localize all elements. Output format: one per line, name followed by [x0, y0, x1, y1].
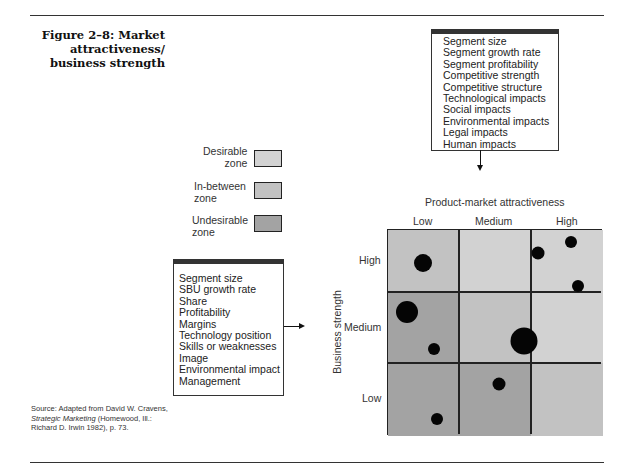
grid-divider [458, 230, 460, 434]
list-item: Profitability [179, 307, 283, 318]
sbu-bubble [565, 236, 577, 248]
legend-label-line: zone [203, 157, 247, 169]
row-label-high: High [359, 254, 381, 266]
sbu-bubble [414, 254, 432, 272]
sbu-bubble [532, 247, 545, 260]
source-book-title: Strategic Marketing [31, 414, 96, 423]
bottom-rule [30, 462, 604, 463]
grid-divider [388, 362, 601, 364]
list-item: Legal impacts [443, 127, 558, 138]
source-citation: Source: Adapted from David W. Cravens, S… [31, 404, 171, 433]
legend-label-in-between: In-between zone [194, 180, 246, 204]
sbu-bubble [493, 378, 506, 391]
y-axis-title: Business strength [331, 282, 343, 382]
x-axis-title: Product-market attractiveness [425, 196, 564, 208]
legend-swatch-in-between [254, 182, 282, 199]
legend-label-line: In-between [194, 180, 246, 192]
column-label-high: High [556, 215, 578, 227]
legend-label-desirable: Desirable zone [203, 145, 247, 169]
cell-medium-low [388, 292, 459, 363]
top-rule [30, 15, 604, 16]
arrow-down-icon [477, 165, 483, 171]
cell-high-medium [459, 230, 531, 292]
cell-low-high [531, 363, 603, 436]
market-factors-box: Segment size Segment growth rate Segment… [431, 29, 559, 151]
legend-swatch-undesirable [254, 215, 282, 232]
sbu-bubble [511, 328, 538, 355]
list-item: Human impacts [443, 139, 558, 150]
sbu-bubble [428, 343, 440, 355]
cell-low-medium [459, 363, 531, 436]
column-label-low: Low [413, 215, 432, 227]
list-item: Management [179, 376, 283, 387]
figure-title-line: Figure 2–8: Market [40, 28, 165, 42]
source-text: Source: Adapted from David W. Cravens, [31, 404, 168, 413]
column-label-medium: Medium [475, 215, 512, 227]
figure-title-line: attractiveness/ [40, 42, 165, 56]
arrow-right-icon [299, 323, 305, 329]
sbu-bubble [396, 301, 418, 323]
attractiveness-strength-matrix [387, 229, 602, 435]
list-item: Competitive strength [443, 70, 558, 81]
sbu-bubble [431, 413, 443, 425]
legend-label-line: Undesirable [192, 214, 248, 226]
row-label-medium: Medium [344, 321, 381, 333]
row-label-low: Low [362, 392, 381, 404]
business-factors-box: Segment size SBU growth rate Share Profi… [173, 259, 284, 396]
legend-swatch-desirable [254, 150, 282, 167]
legend-label-undesirable: Undesirable zone [192, 214, 248, 238]
cell-medium-high [531, 292, 603, 363]
legend-label-line: zone [194, 192, 246, 204]
legend-label-line: zone [192, 226, 248, 238]
figure-title: Figure 2–8: Market attractiveness/ busin… [40, 28, 165, 70]
legend-label-line: Desirable [203, 145, 247, 157]
sbu-bubble [572, 280, 584, 292]
figure-title-line: business strength [40, 56, 165, 70]
list-item: Environmental impact [179, 364, 283, 375]
cell-low-low [388, 363, 459, 436]
grid-divider [388, 291, 601, 293]
